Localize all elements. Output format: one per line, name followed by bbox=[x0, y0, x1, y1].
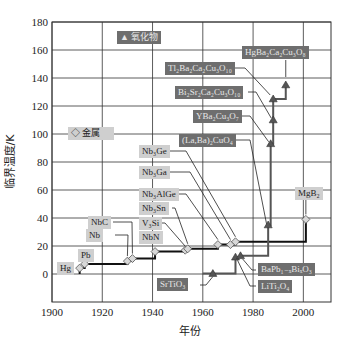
label-srtio3: SrTiO₃ bbox=[157, 278, 188, 291]
label-nb: Nb bbox=[86, 229, 103, 242]
label-hg: Hg bbox=[57, 262, 74, 275]
label-nbc: NbC bbox=[88, 216, 111, 229]
y-axis-label: 临界温度/K bbox=[3, 134, 17, 190]
svg-text:1980: 1980 bbox=[242, 306, 265, 318]
legend-metal: ◇ 金属 bbox=[68, 127, 114, 140]
svg-text:1960: 1960 bbox=[192, 306, 215, 318]
label-bapbbio3: BaPb₁₋ₓBiₓO₃ bbox=[258, 263, 315, 276]
label-ybco: YBa₂Cu₃O₇ bbox=[193, 110, 242, 123]
label-nb3ga: Nb₃Ga bbox=[139, 166, 170, 179]
svg-text:1920: 1920 bbox=[91, 306, 114, 318]
svg-text:60: 60 bbox=[37, 184, 49, 196]
svg-text:80: 80 bbox=[37, 156, 49, 168]
svg-text:100: 100 bbox=[32, 128, 49, 140]
label-mgb2: MgB₂ bbox=[295, 187, 323, 200]
label-nb3alge: Nb₃AlGe bbox=[139, 188, 179, 201]
svg-text:160: 160 bbox=[32, 44, 49, 56]
label-tbcco: Tl₂Ba₂Ca₂Cu₃O₁₀ bbox=[165, 62, 235, 75]
label-hbcco: HgBa₂Ca₂Cu₃O₈ bbox=[242, 46, 309, 59]
label-nb3sn: Nb₃Sn bbox=[139, 202, 169, 215]
svg-text:140: 140 bbox=[32, 72, 49, 84]
x-axis-label: 年份 bbox=[179, 324, 201, 338]
label-bscco: Bi₂Sr₂Ca₂Cu₃O₁₀ bbox=[175, 86, 243, 99]
label-v3si: V₃Si bbox=[139, 217, 162, 230]
svg-text:40: 40 bbox=[37, 212, 49, 224]
svg-text:2000: 2000 bbox=[292, 306, 315, 318]
svg-text:1940: 1940 bbox=[142, 306, 165, 318]
legend-oxide: ▲ 氧化物 bbox=[117, 31, 161, 44]
svg-text:120: 120 bbox=[32, 100, 49, 112]
svg-text:1900: 1900 bbox=[41, 306, 64, 318]
label-pb: Pb bbox=[78, 249, 94, 262]
svg-text:0: 0 bbox=[43, 268, 49, 280]
svg-text:20: 20 bbox=[37, 240, 49, 252]
label-nb3ge: Nb₃Ge bbox=[139, 145, 170, 158]
label-nbn: NbN bbox=[139, 231, 163, 244]
label-liti2o4: LiTi₂O₄ bbox=[258, 280, 292, 293]
label-labacuo4: (La,Ba)₂CuO₄ bbox=[179, 134, 236, 147]
svg-text:180: 180 bbox=[32, 16, 49, 28]
